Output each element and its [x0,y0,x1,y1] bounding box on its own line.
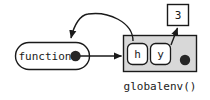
globalenv-caption: globalenv() [124,80,197,93]
globalenv-parent-dot [180,55,190,65]
binding-label-y: y [157,48,164,61]
function-label: function [19,50,72,63]
diagram-canvas: function h y 3 globalenv() [0,0,210,100]
binding-label-h: h [134,48,141,61]
value-label-3: 3 [175,9,182,22]
environment-diagram: function h y 3 globalenv() [0,0,210,100]
function-binding-dot [70,51,80,61]
